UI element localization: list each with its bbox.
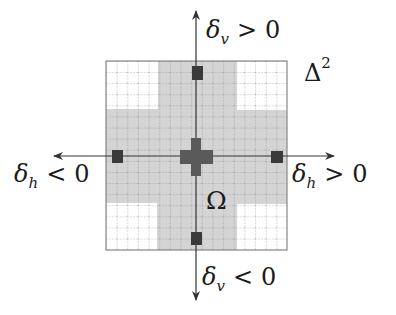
label-region-omega: Ω — [206, 188, 227, 213]
marker-right — [271, 151, 283, 163]
label-delta-v-negative: δv<0 — [202, 265, 276, 289]
label-domain-delta-squared: Δ2 — [304, 60, 331, 85]
marker-bottom — [191, 232, 202, 245]
label-delta-h-positive: δh>0 — [292, 162, 368, 186]
marker-top — [192, 66, 203, 80]
label-delta-v-positive: δv>0 — [206, 18, 280, 42]
label-delta-h-negative: δh<0 — [14, 162, 90, 186]
marker-left — [112, 150, 123, 163]
diagram-canvas — [0, 0, 396, 315]
